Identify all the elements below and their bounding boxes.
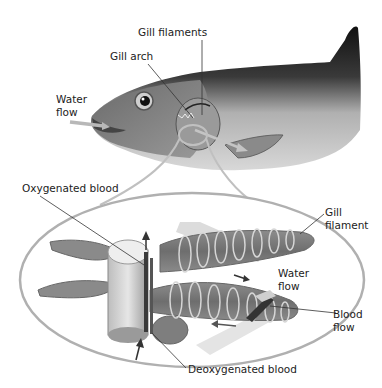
label-water-flow-detail-line2: flow: [278, 280, 300, 292]
gill-diagram: Gill filaments Gill arch Water flow Oxyg…: [0, 0, 382, 388]
label-water-flow-top-line2: flow: [56, 106, 78, 118]
gill-detail-illustration: [20, 193, 364, 367]
label-gill-filament-line2: filament: [325, 219, 368, 231]
label-blood-flow-line2: flow: [333, 321, 355, 333]
diagram-artwork: [0, 0, 382, 388]
label-gill-filaments: Gill filaments: [138, 26, 207, 38]
label-deoxygenated-blood: Deoxygenated blood: [188, 363, 297, 375]
fish-illustration: [70, 20, 382, 205]
label-water-flow-detail-line1: Water: [278, 267, 309, 279]
label-blood-flow-line1: Blood: [333, 308, 363, 320]
label-gill-filament-line1: Gill: [325, 206, 342, 218]
label-gill-arch: Gill arch: [110, 50, 153, 62]
label-water-flow-top-line1: Water: [56, 93, 87, 105]
label-oxygenated-blood: Oxygenated blood: [22, 182, 119, 194]
